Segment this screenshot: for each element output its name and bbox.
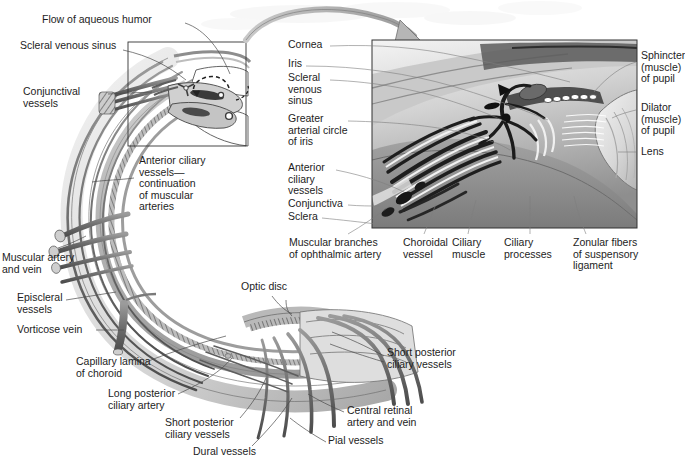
label-short-posterior-ciliary-vessels-right: Short posterior ciliary vessels	[387, 347, 456, 370]
label-cornea: Cornea	[288, 39, 322, 51]
label-lens: Lens	[641, 146, 664, 158]
label-zonular-fibers-of-suspensory-ligament: Zonular fibers of suspensory ligament	[573, 237, 638, 272]
label-muscular-artery-and-vein: Muscular artery and vein	[2, 252, 74, 275]
label-choroidal-vessel: Choroidal vessel	[403, 237, 448, 260]
label-greater-arterial-circle-of-iris: Greater arterial circle of iris	[288, 113, 348, 148]
label-conjunctiva: Conjunctiva	[288, 198, 343, 210]
label-anterior-ciliary-vessels-inset: Anterior ciliary vessels	[288, 162, 325, 197]
label-optic-disc: Optic disc	[241, 281, 287, 293]
label-flow-of-aqueous-humor: Flow of aqueous humor	[42, 14, 152, 26]
label-anterior-ciliary-vessels: Anterior ciliary vessels— continuation o…	[139, 155, 206, 213]
label-sclera: Sclera	[288, 211, 318, 223]
label-dural-vessels: Dural vessels	[193, 446, 256, 458]
label-ciliary-muscle: Ciliary muscle	[452, 237, 485, 260]
label-scleral-venous-sinus-inset: Scleral venous sinus	[288, 72, 322, 107]
figure-caption	[0, 458, 685, 469]
label-central-retinal-artery-and-vein: Central retinal artery and vein	[347, 405, 416, 428]
figure-canvas: Flow of aqueous humor Scleral venous sin…	[0, 0, 685, 469]
label-iris: Iris	[288, 58, 302, 70]
label-short-posterior-ciliary-vessels-left: Short posterior ciliary vessels	[165, 417, 234, 440]
label-vorticose-vein: Vorticose vein	[17, 324, 82, 336]
label-conjunctival-vessels: Conjunctival vessels	[23, 86, 80, 109]
label-pial-vessels: Pial vessels	[328, 435, 383, 447]
label-sphincter-muscle-of-pupil: Sphincter (muscle) of pupil	[641, 50, 685, 85]
label-capillary-lamina-of-choroid: Capillary lamina of choroid	[76, 356, 151, 379]
label-scleral-venous-sinus: Scleral venous sinus	[20, 40, 116, 52]
label-episcleral-vessels: Episcleral vessels	[17, 292, 63, 315]
eyeball-artwork	[0, 0, 685, 469]
label-muscular-branches-of-ophthalmic-artery: Muscular branches of ophthalmic artery	[289, 237, 381, 260]
inset-photograph	[372, 40, 637, 228]
label-ciliary-processes: Ciliary processes	[504, 237, 552, 260]
label-dilator-muscle-of-pupil: Dilator (muscle) of pupil	[641, 102, 681, 137]
label-long-posterior-ciliary-artery: Long posterior ciliary artery	[108, 388, 175, 411]
